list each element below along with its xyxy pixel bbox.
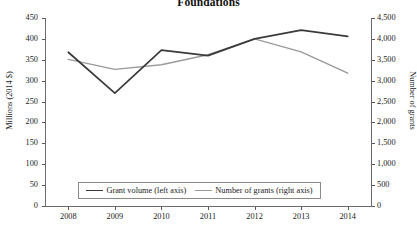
- chart-container: Foundations Millions (2014 $) Number of …: [0, 0, 417, 232]
- legend-item-number-of-grants: Number of grants (right axis): [195, 186, 312, 195]
- series-line-grant-volume: [68, 30, 347, 93]
- legend-item-grant-volume: Grant volume (left axis): [86, 186, 186, 195]
- chart-legend: Grant volume (left axis) Number of grant…: [78, 182, 321, 199]
- legend-label: Grant volume (left axis): [106, 186, 186, 195]
- legend-line-swatch-icon: [195, 190, 212, 191]
- legend-label: Number of grants (right axis): [215, 186, 312, 195]
- legend-line-swatch-icon: [86, 190, 103, 191]
